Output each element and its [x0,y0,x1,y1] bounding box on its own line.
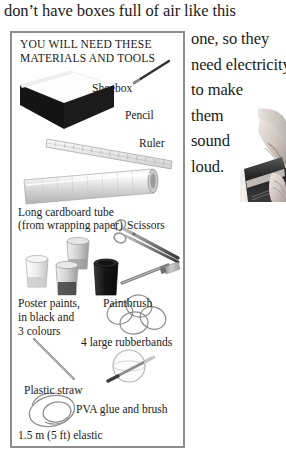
label-scissors: Scissors [127,219,165,233]
label-elastic: 1.5 m (5 ft) elastic [18,429,103,443]
materials-box-heading: YOU WILL NEED THESE MATERIALS AND TOOLS [20,38,180,65]
heading-line-2: MATERIALS AND TOOLS [20,52,180,66]
heading-line-1: YOU WILL NEED THESE [20,38,180,52]
paint-pots-illustration [26,237,118,295]
label-plastic-straw: Plastic straw [24,384,82,398]
label-poster-paints-line2: in black and [18,311,74,325]
shoebox-illustration [20,71,114,129]
body-line-1: one, so they [191,26,286,52]
label-shoebox: Shoebox [92,82,132,96]
label-cardboard-tube: Long cardboard tube [18,206,114,220]
paintbrush-illustration [122,262,180,283]
glue-and-brush-illustration [108,350,154,382]
plastic-straw-illustration [34,339,74,379]
label-rubberbands: 4 large rubberbands [81,336,172,350]
cardboard-tube-illustration [24,169,158,204]
label-pva-glue: PVA glue and brush [76,403,167,417]
body-text-top-line: don’t have boxes full of air like this [4,1,286,21]
label-pencil: Pencil [125,109,154,123]
label-ruler: Ruler [139,137,165,151]
label-poster-paints-line3: 3 colours [18,325,60,339]
label-paintbrush: Paintbrush [103,297,152,311]
body-line-3: to make [191,77,286,103]
materials-and-tools-box: YOU WILL NEED THESE MATERIALS AND TOOLS [10,31,185,448]
label-poster-paints: Poster paints, [18,297,80,311]
body-line-2: need electricity [191,52,286,78]
page-root: don’t have boxes full of air like this o… [0,0,286,462]
hands-playing-instrument-photo [238,107,286,202]
label-cardboard-tube-note: (from wrapping paper) [18,219,123,233]
